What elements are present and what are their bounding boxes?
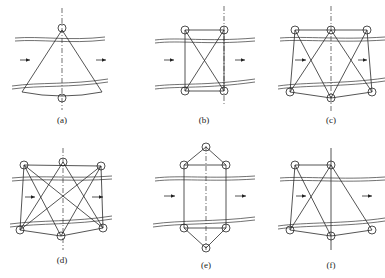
panel-label: (d) [57,255,68,265]
panel-f: (f) [278,148,385,270]
panel-label: (f) [327,260,336,270]
panel-a: (a) [12,8,108,125]
panel-b: (b) [155,6,255,125]
panel-label: (e) [201,260,211,270]
panel-d: (d) [10,148,112,265]
river-bank-top [15,37,105,39]
panel-label: (b) [199,115,210,125]
panel-label: (a) [57,115,67,125]
panel-label: (c) [326,115,336,125]
diagram-figure: (a) (b) [0,0,385,278]
panel-e: (e) [153,143,255,270]
panel-c: (c) [278,6,385,125]
